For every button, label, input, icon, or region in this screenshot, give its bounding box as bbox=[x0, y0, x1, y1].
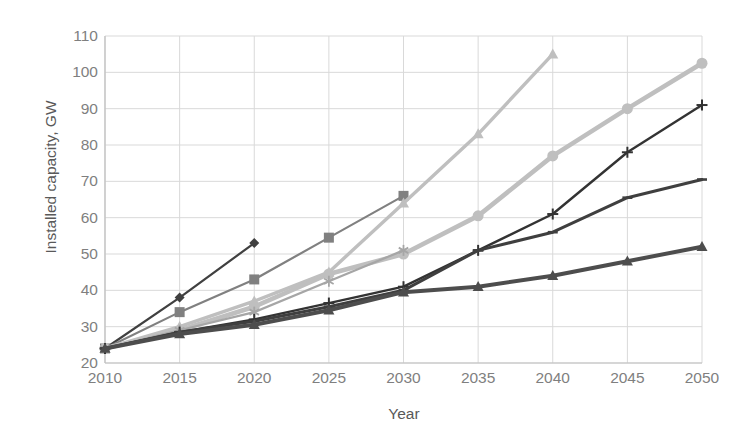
marker-circle bbox=[547, 150, 558, 161]
data-point-circle bbox=[547, 150, 558, 161]
plot-area bbox=[0, 0, 744, 442]
data-point-square bbox=[324, 233, 334, 243]
marker-circle bbox=[473, 210, 484, 221]
data-point-circle bbox=[697, 58, 708, 69]
data-point-circle bbox=[622, 103, 633, 114]
marker-square bbox=[249, 274, 259, 284]
chart-container: Installed capacity, GW Year 203040506070… bbox=[0, 0, 744, 442]
marker-square bbox=[324, 233, 334, 243]
data-point-circle bbox=[473, 210, 484, 221]
data-point-square bbox=[249, 274, 259, 284]
marker-circle bbox=[697, 58, 708, 69]
marker-circle bbox=[622, 103, 633, 114]
marker-square bbox=[175, 307, 185, 317]
data-point-square bbox=[175, 307, 185, 317]
